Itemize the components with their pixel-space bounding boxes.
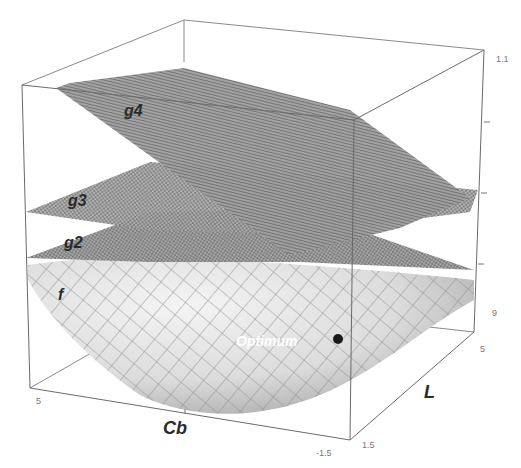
label-optimum: Optimum (236, 333, 297, 349)
tick-l-front: 1.5 (362, 440, 375, 450)
label-g3: g3 (67, 192, 87, 209)
3d-surface-plot: g4 g3 g2 f Optimum Cb L 1.1 9 5 1.5 -1.5… (0, 0, 521, 468)
axis-label-cb: Cb (163, 418, 187, 438)
label-g4: g4 (123, 102, 143, 119)
tick-l-back: 5 (480, 344, 485, 354)
label-g2: g2 (63, 234, 83, 251)
tick-z-bottom: 9 (492, 308, 497, 318)
tick-z-top: 1.1 (496, 54, 509, 64)
tick-cb-right: -1.5 (316, 448, 332, 458)
axis-label-l: L (424, 382, 435, 402)
tick-cb-left: 5 (36, 396, 41, 406)
optimum-marker (333, 334, 343, 344)
